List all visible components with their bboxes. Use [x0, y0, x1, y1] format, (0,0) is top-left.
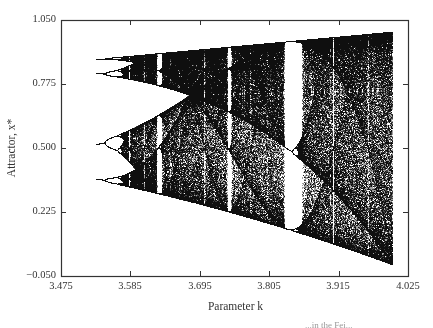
x-tick-label: 3.915	[318, 280, 358, 291]
x-tick-label: 3.475	[41, 280, 81, 291]
y-tick-label: −0.050	[6, 269, 56, 280]
x-tick-label: 3.805	[249, 280, 289, 291]
y-axis-label: Attractor, x*	[5, 119, 17, 177]
x-tick-label: 3.585	[110, 280, 150, 291]
caption-fragment: ...in the Fei...	[305, 320, 353, 328]
x-tick-label: 3.695	[180, 280, 220, 291]
y-tick-label: 0.775	[6, 77, 56, 88]
y-tick-label: 0.225	[6, 205, 56, 216]
y-tick-label: 1.050	[6, 13, 56, 24]
x-axis-label: Parameter k	[0, 300, 433, 312]
bifurcation-plot	[0, 0, 433, 328]
x-tick-label: 4.025	[388, 280, 428, 291]
bifurcation-figure: 1.050 0.775 0.500 0.225 −0.050 3.475 3.5…	[0, 0, 433, 328]
